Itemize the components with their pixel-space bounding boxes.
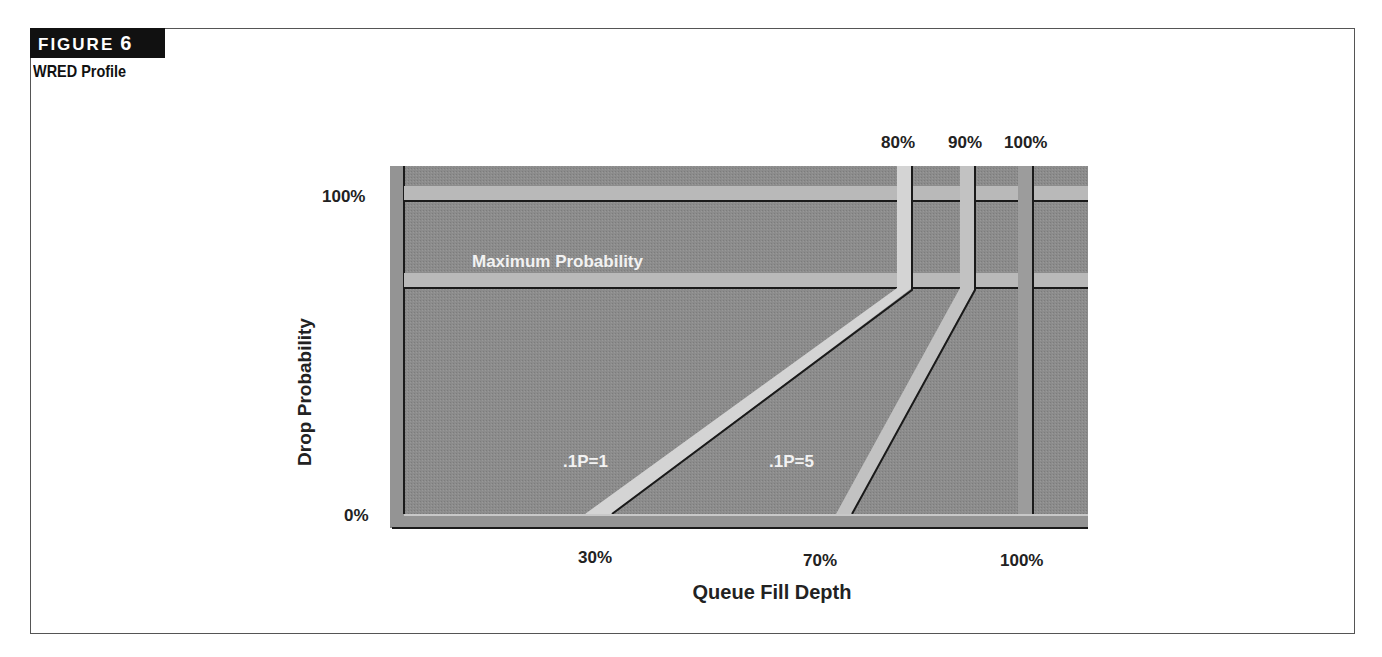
chart-panel bbox=[390, 166, 1088, 528]
series-2-label: .1P=5 bbox=[769, 452, 814, 472]
max-probability-label: Maximum Probability bbox=[472, 252, 643, 272]
y-tick-100: 100% bbox=[322, 187, 365, 207]
top-marker-90: 90% bbox=[948, 133, 982, 153]
y-axis-title: Drop Probability bbox=[294, 318, 316, 466]
y-axis-bar bbox=[390, 166, 404, 526]
top-marker-100: 100% bbox=[1004, 133, 1047, 153]
x-tick-30: 30% bbox=[578, 548, 612, 568]
x-axis-title: Queue Fill Depth bbox=[693, 581, 852, 604]
tail-drop-line bbox=[1018, 166, 1032, 514]
x-tick-100: 100% bbox=[1000, 551, 1043, 571]
band-100 bbox=[404, 186, 1088, 200]
series-1-label: .1P=1 bbox=[563, 452, 608, 472]
y-tick-0: 0% bbox=[344, 506, 369, 526]
wred-chart bbox=[0, 0, 1382, 657]
x-axis-bar bbox=[392, 514, 1088, 528]
top-marker-80: 80% bbox=[881, 133, 915, 153]
band-max-probability bbox=[404, 273, 1088, 287]
x-tick-70: 70% bbox=[803, 551, 837, 571]
